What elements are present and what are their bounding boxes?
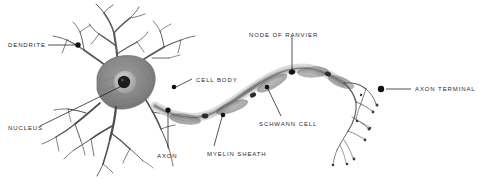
dot-node-of-ranvier xyxy=(289,69,294,74)
leader-cell-body xyxy=(176,79,192,87)
label-axon-terminal: AXON TERMINAL xyxy=(415,85,476,93)
label-axon: AXON xyxy=(157,152,178,160)
dot-axon-terminal xyxy=(378,86,384,92)
axon-terminal-tips xyxy=(332,94,379,167)
leader-myelin-sheath xyxy=(214,117,222,146)
dot-dendrite xyxy=(75,42,80,47)
label-dendrite: DENDRITE xyxy=(8,41,46,49)
label-cell-body: CELL BODY xyxy=(196,76,238,84)
dot-cell-body xyxy=(172,85,177,90)
dot-schwann-cell xyxy=(265,85,270,90)
label-myelin-sheath: MYELIN SHEATH xyxy=(207,150,267,158)
label-nucleus: NUCLEUS xyxy=(8,124,43,132)
label-node-of-ranvier: NODE OF RANVIER xyxy=(249,31,318,39)
dot-axon xyxy=(165,107,170,112)
label-schwann-cell: SCHWANN CELL xyxy=(259,120,317,128)
leader-lines xyxy=(40,36,411,148)
nucleus xyxy=(114,71,137,94)
dot-myelin-sheath xyxy=(221,113,226,118)
axon-terminal-branches xyxy=(333,83,376,164)
leader-schwann-cell xyxy=(268,89,281,116)
